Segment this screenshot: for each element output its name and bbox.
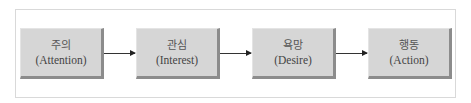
- node-action: 행동 (Action): [368, 28, 452, 79]
- node-interest: 관심 (Interest): [136, 28, 220, 79]
- arrow-attention-to-interest-icon: [104, 53, 135, 54]
- node-attention-english: (Attention): [35, 53, 86, 68]
- node-desire-english: (Desire): [274, 53, 312, 68]
- node-desire: 욕망 (Desire): [252, 28, 336, 79]
- node-interest-korean: 관심: [167, 38, 187, 53]
- node-attention-korean: 주의: [51, 38, 71, 53]
- node-attention: 주의 (Attention): [20, 28, 104, 79]
- node-action-korean: 행동: [399, 38, 419, 53]
- node-action-english: (Action): [390, 53, 429, 68]
- node-desire-korean: 욕망: [283, 38, 303, 53]
- arrow-desire-to-action-icon: [336, 53, 367, 54]
- node-interest-english: (Interest): [156, 53, 198, 68]
- arrow-interest-to-desire-icon: [220, 53, 251, 54]
